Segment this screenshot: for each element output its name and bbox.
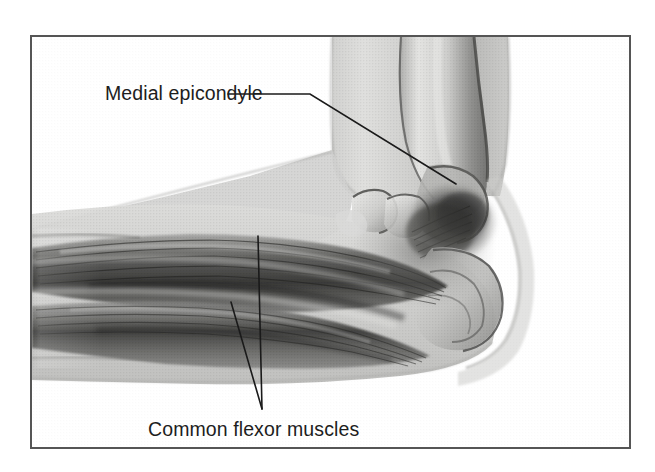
label-medial-epicondyle: Medial epicondyle — [105, 82, 263, 104]
elbow-anatomy-illustration: Medial epicondyle Common flexor muscles — [0, 0, 655, 472]
anatomy-figure: Medial epicondyle Common flexor muscles — [0, 0, 655, 472]
label-common-flexor-muscles: Common flexor muscles — [148, 418, 359, 440]
